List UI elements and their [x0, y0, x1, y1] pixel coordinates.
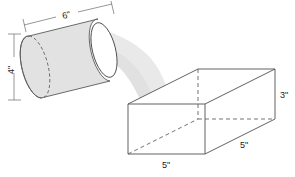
prism-front-width-label: 5": [162, 160, 170, 170]
length-dim-line-left: [24, 17, 56, 25]
length-dim-tick-right: [111, 1, 114, 14]
length-dim-line-right: [78, 4, 112, 12]
cylinder-group: 6" 4": [6, 1, 122, 100]
cylinder-diameter-label: 4": [6, 66, 16, 74]
prism-height-label: 3": [280, 90, 288, 100]
prism-side-depth-label: 5": [240, 140, 248, 150]
figure-container: 6" 4": [0, 0, 295, 177]
cylinder-diameter-dimension: 4": [6, 34, 21, 100]
length-dim-tick-left: [23, 19, 26, 32]
geometry-diagram: 6" 4": [0, 0, 295, 177]
cylinder-length-label: 6": [61, 9, 71, 21]
